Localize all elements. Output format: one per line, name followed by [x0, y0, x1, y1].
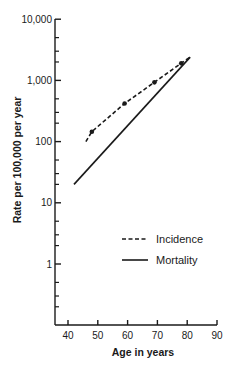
series-line-incidence: [86, 57, 190, 142]
legend: Incidence Mortality: [122, 233, 203, 266]
legend-label-incidence: Incidence: [156, 233, 203, 245]
x-axis: 405060708090: [55, 320, 223, 341]
x-axis-title: Age in years: [112, 346, 175, 358]
y-tick-label: 10,000: [21, 14, 52, 25]
data-point-marker: [152, 80, 157, 85]
x-tick-label: 90: [211, 330, 223, 341]
y-tick-label: 1: [46, 259, 52, 270]
x-tick-label: 60: [122, 330, 134, 341]
data-point-marker: [90, 129, 95, 134]
legend-label-mortality: Mortality: [156, 254, 198, 266]
x-tick-label: 70: [152, 330, 164, 341]
y-tick-label: 10: [41, 197, 53, 208]
y-axis: 1101001,00010,000: [21, 14, 61, 325]
y-axis-title: Rate per 100,000 per year: [11, 97, 23, 224]
x-tick-label: 80: [182, 330, 194, 341]
x-tick-label: 50: [92, 330, 104, 341]
rate-by-age-chart: 1101001,00010,000 405060708090 Rate per …: [0, 0, 233, 372]
series-line-mortality: [74, 57, 190, 184]
data-point-marker: [122, 101, 127, 106]
y-tick-label: 1,000: [27, 75, 52, 86]
x-tick-label: 40: [62, 330, 74, 341]
y-tick-label: 100: [35, 136, 52, 147]
series-layer: [74, 57, 190, 184]
